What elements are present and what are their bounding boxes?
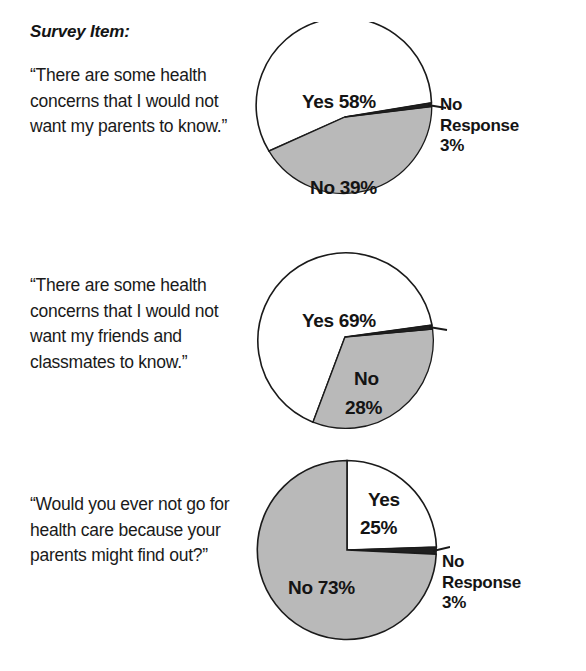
pie-2-label-no-value: 28% [345, 397, 383, 418]
pie-chart-1-svg: Yes 58% No 39% [250, 22, 450, 222]
pie-chart-3: Yes 25% No 73% [250, 453, 586, 653]
survey-row-1: “There are some health concerns that I w… [0, 0, 586, 230]
pie-chart-2: Yes 69% No 28% [250, 242, 586, 442]
survey-question-text: “There are some health concerns that I w… [30, 273, 245, 375]
pie-3-label-yes: Yes [368, 489, 400, 510]
pie-1-label-no: No 39% [310, 177, 377, 198]
survey-question-text: “Would you ever not go for health care b… [30, 492, 245, 569]
pie-1-label-yes: Yes 58% [302, 91, 376, 112]
pie-2-label-yes: Yes 69% [302, 310, 376, 331]
pie-1-no-response-label: No Response 3% [440, 95, 519, 157]
no-response-line-2: Response [440, 116, 519, 137]
no-response-line-3: 3% [440, 136, 519, 157]
figure-canvas: Survey Item: “There are some health conc… [0, 0, 586, 671]
pie-3-label-no: No 73% [288, 577, 355, 598]
pie-3-label-yes-value: 25% [360, 517, 398, 538]
survey-row-3: “Would you ever not go for health care b… [0, 455, 586, 671]
pie-chart-2-svg: Yes 69% No 28% [250, 242, 450, 442]
pie-2-label-no: No [354, 368, 379, 389]
no-response-line-1: No [440, 95, 519, 116]
pie-chart-3-svg: Yes 25% No 73% [250, 453, 450, 653]
survey-question-text: “There are some health concerns that I w… [30, 63, 245, 140]
survey-row-2: “There are some health concerns that I w… [0, 230, 586, 460]
pie-chart-1: Yes 58% No 39% [250, 22, 586, 222]
